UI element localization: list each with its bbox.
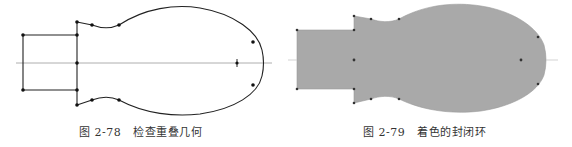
figure-caption: 图 2-79着色的封闭环 bbox=[363, 123, 486, 139]
caption-number: 图 2-79 bbox=[363, 126, 405, 139]
figure-2-79: 图 2-79着色的封闭环 bbox=[286, 0, 572, 147]
figure-2-78: 图 2-78检查重叠几何 bbox=[0, 0, 286, 147]
caption-title: 着色的封闭环 bbox=[417, 126, 486, 139]
shaft-rectangle bbox=[23, 35, 77, 90]
caption-title: 检查重叠几何 bbox=[133, 126, 202, 139]
sketch-outline-drawing bbox=[0, 0, 286, 120]
sketch-filled-drawing bbox=[286, 0, 572, 120]
caption-number: 图 2-78 bbox=[79, 126, 121, 139]
figure-caption: 图 2-78检查重叠几何 bbox=[79, 123, 202, 139]
vertex-points bbox=[21, 20, 255, 107]
bulb-profile bbox=[77, 7, 264, 115]
shaded-closed-loop bbox=[297, 4, 546, 112]
